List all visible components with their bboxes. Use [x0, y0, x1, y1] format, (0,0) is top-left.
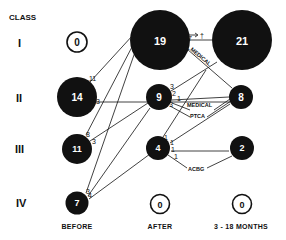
svg-text:17: 17 [184, 35, 192, 42]
annotation-medical-mid: MEDICAL [187, 102, 213, 108]
svg-text:21: 21 [236, 35, 248, 47]
flow-diagram: CLASS I II III IV BEFORE AFTER 3 - 18 MO… [0, 0, 286, 240]
svg-text:2: 2 [172, 90, 176, 97]
node-followup-class-i: 21 [212, 10, 272, 70]
svg-text:1: 1 [177, 95, 181, 102]
svg-text:1: 1 [164, 134, 168, 141]
svg-text:11: 11 [72, 144, 82, 154]
svg-text:11: 11 [89, 75, 96, 82]
node-after-class-i: 19 [130, 10, 190, 70]
svg-text:0: 0 [74, 37, 80, 48]
svg-text:1: 1 [170, 139, 174, 146]
svg-text:3: 3 [92, 138, 96, 145]
node-followup-class-iii: 2 [230, 136, 254, 160]
column-label-after: AFTER [148, 223, 173, 230]
svg-text:1: 1 [171, 146, 175, 153]
svg-text:3: 3 [96, 98, 100, 105]
svg-text:1: 1 [174, 153, 178, 160]
row-label-iii: III [15, 143, 24, 155]
node-before-class-i: 0 [67, 32, 87, 52]
svg-text:0: 0 [157, 200, 162, 210]
annotation-acbg: ACBG [188, 166, 204, 172]
svg-text:3: 3 [169, 101, 173, 108]
svg-text:14: 14 [71, 92, 83, 103]
row-label-ii: II [16, 92, 22, 104]
svg-text:19: 19 [154, 35, 166, 47]
svg-text:0: 0 [239, 200, 244, 210]
svg-text:1: 1 [184, 26, 188, 33]
column-label-before: BEFORE [62, 223, 93, 230]
node-followup-class-iv: 0 [233, 195, 252, 214]
node-after-class-iv: 0 [151, 195, 170, 214]
svg-text:7: 7 [74, 198, 79, 208]
column-label-followup: 3 - 18 MONTHS [214, 223, 268, 230]
node-followup-class-ii: 8 [229, 85, 253, 109]
row-label-i: I [18, 37, 21, 49]
svg-text:†: † [200, 32, 204, 39]
node-before-class-iii: 11 [62, 134, 92, 164]
svg-text:2: 2 [239, 143, 244, 153]
node-before-class-ii: 14 [57, 77, 97, 117]
class-title: CLASS [9, 13, 37, 22]
annotation-ptca: PTCA [190, 113, 205, 119]
svg-text:4: 4 [88, 192, 92, 199]
svg-text:8: 8 [238, 92, 244, 103]
svg-text:8: 8 [86, 131, 90, 138]
row-label-iv: IV [16, 197, 27, 209]
svg-text:3: 3 [170, 83, 174, 90]
annotation-medical-top: MEDICAL [189, 46, 213, 67]
svg-text:1: 1 [160, 151, 164, 158]
svg-text:9: 9 [156, 92, 162, 103]
